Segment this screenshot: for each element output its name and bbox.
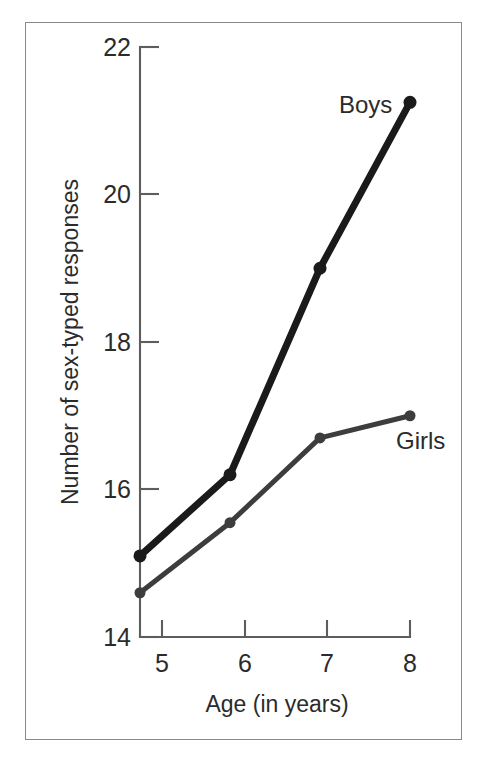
data-point <box>225 517 236 528</box>
x-axis-title: Age (in years) <box>205 691 348 717</box>
boys-line <box>140 102 410 556</box>
data-point <box>405 410 416 421</box>
figure-root: 22 20 18 16 14 5 6 7 8 <box>0 0 485 767</box>
series-label-boys: Boys <box>339 91 392 118</box>
y-tick-label-18: 18 <box>103 328 131 356</box>
girls-markers <box>135 410 416 598</box>
data-point <box>404 96 417 109</box>
x-tick-label-7: 7 <box>320 649 334 677</box>
y-tick-label-16: 16 <box>103 475 131 503</box>
y-axis-tick-labels: 22 20 18 16 14 <box>103 33 131 651</box>
data-point <box>135 587 146 598</box>
data-point <box>134 549 147 562</box>
data-point <box>314 262 327 275</box>
girls-line <box>140 416 410 593</box>
series-label-girls: Girls <box>396 427 445 454</box>
axis-lines <box>140 47 410 637</box>
y-tick-label-22: 22 <box>103 33 131 61</box>
x-axis-ticks <box>162 620 410 637</box>
x-axis-tick-labels: 5 6 7 8 <box>155 649 417 677</box>
x-tick-label-5: 5 <box>155 649 169 677</box>
x-tick-label-8: 8 <box>403 649 417 677</box>
x-tick-label-6: 6 <box>238 649 252 677</box>
y-tick-label-20: 20 <box>103 180 131 208</box>
y-tick-label-14: 14 <box>103 623 131 651</box>
data-point <box>315 432 326 443</box>
series-boys <box>134 96 417 563</box>
data-point <box>224 468 237 481</box>
line-chart: 22 20 18 16 14 5 6 7 8 <box>0 0 485 767</box>
series-girls <box>135 410 416 598</box>
y-axis-title: Number of sex-typed responses <box>57 179 83 505</box>
